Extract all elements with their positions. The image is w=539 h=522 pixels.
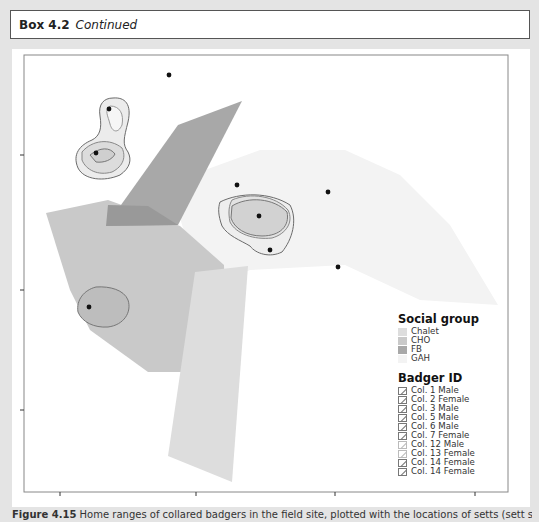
hatch-swatch-icon — [398, 423, 407, 431]
caption-label: Figure 4.15 — [12, 509, 76, 520]
swatch-cho — [398, 337, 407, 345]
home-range-bottom-left — [78, 287, 129, 327]
hatch-swatch-icon — [398, 414, 407, 422]
sett-point — [107, 107, 112, 112]
hatch-swatch-icon — [398, 459, 407, 467]
sett-point — [87, 305, 92, 310]
legend-badger-title: Badger ID — [398, 371, 479, 385]
home-range-top-left — [76, 98, 130, 179]
hatch-swatch-icon — [398, 387, 407, 395]
hatch-swatch-icon — [398, 450, 407, 458]
y-axis-ticks — [20, 155, 24, 410]
sett-point — [167, 73, 172, 78]
legend-badger-item: Col. 14 Female — [398, 467, 479, 476]
swatch-gah — [398, 355, 407, 363]
swatch-chalet — [398, 328, 407, 336]
hatch-swatch-icon — [398, 396, 407, 404]
hatch-swatch-icon — [398, 405, 407, 413]
sett-point — [235, 183, 240, 188]
sett-point — [257, 214, 262, 219]
sett-point — [326, 190, 331, 195]
legend-item-gah: GAH — [398, 354, 479, 363]
caption-text: Home ranges of collared badgers in the f… — [80, 509, 532, 520]
x-axis-ticks — [60, 492, 475, 496]
figure-caption: Figure 4.15 Home ranges of collared badg… — [12, 509, 532, 520]
legend-social-group-title: Social group — [398, 312, 479, 326]
sett-point — [268, 248, 273, 253]
swatch-fb — [398, 346, 407, 354]
sett-point — [94, 151, 99, 156]
hatch-swatch-icon — [398, 441, 407, 449]
hatch-swatch-icon — [398, 432, 407, 440]
hatch-swatch-icon — [398, 468, 407, 476]
map-legend: Social group Chalet CHO FB GAH Badger ID… — [398, 312, 479, 476]
sett-point — [336, 265, 341, 270]
